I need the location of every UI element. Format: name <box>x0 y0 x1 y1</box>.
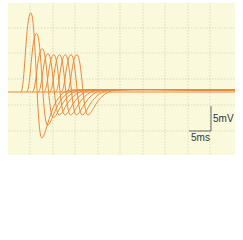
time-scale-label: 5ms <box>191 132 210 143</box>
voltage-scale-label: 5mV <box>213 113 234 124</box>
